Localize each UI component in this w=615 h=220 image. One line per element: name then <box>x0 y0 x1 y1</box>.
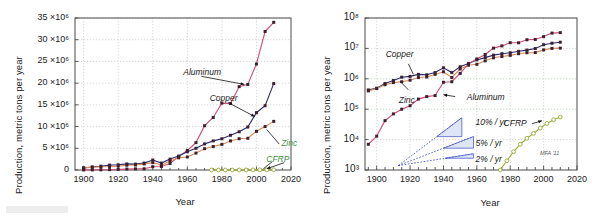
annotation-zinc: Zinc <box>281 138 297 148</box>
annotation-cfrp: CFRP <box>266 154 289 164</box>
x-tick-right-0: 1900 <box>360 174 394 184</box>
x-tick-left-4: 1980 <box>205 174 239 184</box>
y-tick-left-4: 20 ×10⁶ <box>0 77 69 87</box>
y-tick-right-1: 10⁴ <box>305 133 359 144</box>
y-tick-right-5: 10⁸ <box>305 11 359 22</box>
x-tick-left-1: 1920 <box>101 174 135 184</box>
y-tick-left-0: 0 <box>0 164 69 174</box>
series-copper <box>82 82 275 169</box>
annotation-copper: Copper <box>386 49 414 59</box>
y-tick-right-4: 10⁷ <box>305 41 359 52</box>
x-tick-right-6: 2020 <box>560 174 594 184</box>
x-tick-right-3: 1960 <box>460 174 494 184</box>
annotation-2-yr: 2% / yr <box>476 154 502 164</box>
annotation-cfrp: CFRP <box>504 118 527 128</box>
series-aluminum <box>82 21 275 172</box>
x-tick-right-4: 1980 <box>493 174 527 184</box>
x-tick-left-3: 1960 <box>170 174 204 184</box>
y-tick-left-2: 10 ×10⁶ <box>0 121 69 131</box>
series-cfrp <box>210 168 276 172</box>
y-tick-left-7: 35 ×10⁶ <box>0 12 69 22</box>
x-tick-right-5: 2000 <box>527 174 561 184</box>
annotation-5-yr: 5% / yr <box>476 138 502 148</box>
annotation-aluminum: Aluminum <box>467 92 505 102</box>
y-tick-right-3: 10⁶ <box>305 72 359 83</box>
x-tick-left-6: 2020 <box>274 174 308 184</box>
annotation-zinc: Zinc <box>399 95 415 105</box>
annotation-10-yr: 10% / yr <box>476 117 507 127</box>
y-tick-right-2: 10⁵ <box>305 102 359 113</box>
y-tick-left-5: 25 ×10⁶ <box>0 55 69 65</box>
x-tick-right-1: 1920 <box>393 174 427 184</box>
annotation-copper: Copper <box>210 93 238 103</box>
x-tick-right-2: 1940 <box>426 174 460 184</box>
annotation-aluminum: Aluminum <box>183 67 221 77</box>
x-tick-left-2: 1940 <box>136 174 170 184</box>
y-tick-left-6: 30 ×10⁶ <box>0 34 69 44</box>
x-tick-left-0: 1900 <box>67 174 101 184</box>
chart-panel-log: Production, metric tons per year Year MF… <box>305 0 615 220</box>
chart-panel-linear: Production, metric tons per year Year 05… <box>0 0 305 220</box>
y-tick-right-0: 10³ <box>305 163 359 174</box>
y-tick-left-3: 15 ×10⁶ <box>0 99 69 109</box>
figure-production-vs-year: Production, metric tons per year Year 05… <box>0 0 615 220</box>
y-tick-left-1: 5 ×10⁶ <box>0 142 69 152</box>
x-tick-left-5: 2000 <box>239 174 273 184</box>
